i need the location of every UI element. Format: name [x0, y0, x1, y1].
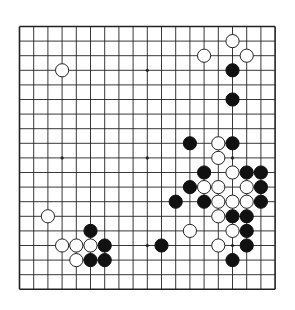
star-point	[231, 244, 234, 247]
black-stone[interactable]	[84, 254, 97, 267]
black-stone[interactable]	[226, 64, 239, 77]
white-stone[interactable]	[183, 224, 196, 237]
go-board[interactable]	[0, 0, 295, 310]
black-stone[interactable]	[254, 195, 267, 208]
white-stone[interactable]	[226, 195, 239, 208]
white-stone[interactable]	[212, 151, 225, 164]
star-point	[146, 244, 149, 247]
white-stone[interactable]	[212, 195, 225, 208]
white-stone[interactable]	[240, 49, 253, 62]
black-stone[interactable]	[155, 239, 168, 252]
white-stone[interactable]	[212, 137, 225, 150]
white-stone[interactable]	[70, 239, 83, 252]
white-stone[interactable]	[56, 239, 69, 252]
white-stone[interactable]	[240, 195, 253, 208]
black-stone[interactable]	[240, 210, 253, 223]
white-stone[interactable]	[84, 239, 97, 252]
white-stone[interactable]	[226, 35, 239, 48]
white-stone[interactable]	[70, 254, 83, 267]
black-stone[interactable]	[98, 239, 111, 252]
star-point	[61, 156, 64, 159]
black-stone[interactable]	[183, 137, 196, 150]
black-stone[interactable]	[169, 195, 182, 208]
black-stone[interactable]	[84, 224, 97, 237]
white-stone[interactable]	[226, 224, 239, 237]
black-stone[interactable]	[198, 195, 211, 208]
star-point	[146, 69, 149, 72]
star-point	[146, 156, 149, 159]
black-stone[interactable]	[183, 181, 196, 194]
white-stone[interactable]	[41, 210, 54, 223]
black-stone[interactable]	[226, 93, 239, 106]
star-point	[231, 156, 234, 159]
black-stone[interactable]	[226, 254, 239, 267]
white-stone[interactable]	[212, 210, 225, 223]
black-stone[interactable]	[226, 137, 239, 150]
black-stone[interactable]	[254, 166, 267, 179]
black-stone[interactable]	[198, 166, 211, 179]
black-stone[interactable]	[240, 224, 253, 237]
white-stone[interactable]	[212, 239, 225, 252]
white-stone[interactable]	[240, 181, 253, 194]
black-stone[interactable]	[240, 239, 253, 252]
black-stone[interactable]	[98, 254, 111, 267]
white-stone[interactable]	[226, 166, 239, 179]
black-stone[interactable]	[240, 166, 253, 179]
white-stone[interactable]	[198, 49, 211, 62]
white-stone[interactable]	[198, 181, 211, 194]
white-stone[interactable]	[212, 181, 225, 194]
black-stone[interactable]	[254, 181, 267, 194]
black-stone[interactable]	[226, 210, 239, 223]
go-board-svg[interactable]	[0, 0, 295, 310]
white-stone[interactable]	[56, 64, 69, 77]
